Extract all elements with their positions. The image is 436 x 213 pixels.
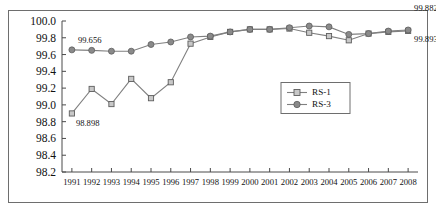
y-tick-label: 99.2	[36, 82, 56, 94]
data-point-rs-3-2006	[366, 31, 372, 37]
data-point-rs-3-1996	[168, 39, 174, 45]
data-point-rs-3-1992	[89, 47, 95, 53]
line-chart-figure: 100.099.899.699.499.299.098.898.698.498.…	[0, 0, 436, 213]
x-tick-label: 2002	[281, 177, 298, 187]
y-tick-label: 99.6	[36, 49, 56, 61]
data-point-rs-1-2005	[346, 38, 351, 43]
data-point-rs-1-1994	[129, 76, 134, 81]
legend-label-rs-1: RS-1	[312, 87, 331, 97]
x-tick-label: 2004	[320, 177, 338, 187]
data-point-rs-3-1998	[207, 33, 213, 39]
data-point-rs-3-1995	[148, 41, 154, 47]
x-tick-label: 2003	[301, 177, 318, 187]
x-tick-label: 2008	[400, 177, 417, 187]
x-tick-label: 1996	[162, 177, 180, 187]
y-tick-label: 98.8	[36, 116, 56, 128]
x-tick-label: 2000	[241, 177, 258, 187]
data-point-rs-3-1994	[128, 48, 134, 54]
data-point-rs-3-2002	[286, 25, 292, 31]
data-point-rs-3-2001	[267, 26, 273, 32]
data-point-rs-1-2004	[326, 34, 331, 39]
data-point-rs-1-1993	[109, 101, 114, 106]
data-point-rs-1-2003	[307, 30, 312, 35]
x-tick-label: 1999	[222, 177, 239, 187]
x-axis-tick-labels: 1991199219931994199519961997199819992000…	[63, 177, 416, 187]
data-point-rs-3-2000	[247, 26, 253, 32]
y-tick-label: 99.4	[36, 65, 56, 77]
y-tick-label: 98.4	[36, 149, 56, 161]
x-tick-label: 1994	[123, 177, 141, 187]
x-tick-label: 1991	[63, 177, 80, 187]
data-point-rs-3-1999	[227, 29, 233, 35]
data-point-rs-3-2005	[346, 31, 352, 37]
data-point-rs-3-2008	[405, 27, 411, 33]
series-line-rs-1	[72, 29, 408, 114]
y-tick-label: 99.0	[36, 99, 56, 111]
y-tick-label: 98.6	[36, 132, 56, 144]
y-axis-tick-marks	[62, 21, 66, 172]
x-tick-label: 1997	[182, 177, 200, 187]
y-tick-label: 98.2	[36, 166, 56, 178]
chart-plot-area: 100.099.899.699.499.299.098.898.698.498.…	[0, 0, 436, 213]
data-point-rs-3-2003	[306, 23, 312, 29]
chart-legend[interactable]: RS-1 RS-3	[281, 83, 350, 114]
annotation-99-882: 99.882	[414, 3, 436, 13]
data-point-rs-1-1992	[89, 86, 94, 91]
data-value-annotations: 99.65698.89899.88299.893	[76, 3, 436, 129]
data-point-rs-1-1991	[69, 111, 74, 116]
data-point-rs-1-1995	[148, 96, 153, 101]
x-tick-label: 2001	[261, 177, 278, 187]
x-tick-label: 2006	[360, 177, 378, 187]
x-tick-label: 2007	[380, 177, 398, 187]
y-axis-tick-labels: 100.099.899.699.499.299.098.898.698.498.…	[30, 15, 56, 178]
data-point-rs-1-1997	[188, 41, 193, 46]
x-tick-label: 1993	[103, 177, 120, 187]
data-point-rs-1-1996	[168, 80, 173, 85]
y-tick-label: 99.8	[36, 32, 56, 44]
legend-label-rs-3: RS-3	[312, 99, 331, 109]
annotation-98-898: 98.898	[76, 118, 100, 128]
series-line-rs-3	[72, 26, 408, 51]
x-tick-label: 1992	[83, 177, 100, 187]
annotation-99-656: 99.656	[78, 35, 102, 45]
x-tick-label: 1995	[142, 177, 159, 187]
legend-marker-square-icon	[294, 90, 300, 96]
x-tick-label: 1998	[202, 177, 219, 187]
annotation-99-893: 99.893	[414, 34, 436, 44]
data-point-rs-3-1993	[108, 48, 114, 54]
data-point-rs-3-2004	[326, 24, 332, 30]
data-point-rs-3-1991	[69, 47, 75, 53]
legend-marker-circle-icon	[294, 101, 300, 107]
y-tick-label: 100.0	[30, 15, 56, 27]
series-polylines	[72, 26, 408, 113]
x-tick-label: 2005	[340, 177, 357, 187]
data-point-rs-3-1997	[188, 34, 194, 40]
data-point-rs-3-2007	[385, 28, 391, 34]
x-axis-tick-marks	[72, 168, 408, 172]
